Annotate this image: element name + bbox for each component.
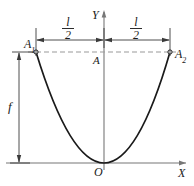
x-axis-arrowhead: [179, 161, 186, 166]
parabola-curve: [36, 52, 170, 163]
half-span-right-numerator: l: [130, 16, 142, 28]
y-axis-label: Y: [92, 9, 99, 21]
half-span-left-denominator: 2: [62, 29, 74, 41]
x-axis-label: X: [178, 167, 185, 179]
point-a2-subscript: 2: [182, 56, 186, 65]
half-span-right-arrow-end: [162, 38, 170, 42]
y-axis-arrowhead: [102, 10, 107, 18]
half-span-left-arrow-end: [96, 38, 104, 42]
sag-label: f: [8, 100, 12, 113]
half-span-left-label: l 2: [62, 16, 74, 41]
midpoint-a-label: A: [93, 55, 100, 66]
half-span-left-numerator: l: [62, 16, 74, 28]
point-a2-label: A2: [175, 48, 186, 63]
sag-arrow-bottom: [17, 155, 21, 163]
point-a1-subscript: 1: [31, 46, 35, 55]
half-span-right-arrow-start: [104, 38, 112, 42]
origin-label: O: [94, 166, 103, 178]
sag-arrow-top: [17, 52, 21, 60]
half-span-right-label: l 2: [130, 16, 142, 41]
parabola-figure: Y X O A1 A2 A l 2 l 2 f: [0, 0, 194, 186]
half-span-left-arrow-start: [36, 38, 44, 42]
half-span-right-denominator: 2: [130, 29, 142, 41]
point-a1-label: A1: [24, 38, 35, 53]
figure-canvas: [0, 0, 194, 186]
